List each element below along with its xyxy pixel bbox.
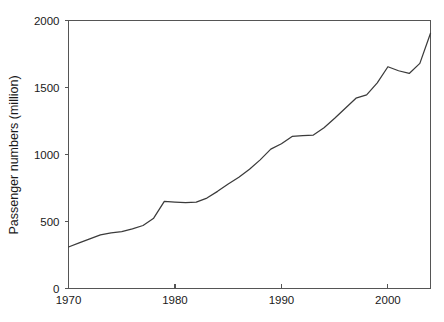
x-tick-label: 1980 <box>162 294 188 306</box>
y-tick-label: 500 <box>40 216 59 228</box>
passenger-numbers-series <box>69 33 431 247</box>
y-tick-label: 2000 <box>34 15 60 27</box>
plot-frame <box>69 21 431 289</box>
y-axis-ticks <box>65 21 69 289</box>
x-axis-ticks <box>69 284 388 289</box>
axis-frame <box>69 21 431 289</box>
line-chart: 0500100015002000 1970198019902000 Passen… <box>0 0 444 322</box>
x-tick-label: 2000 <box>375 294 401 306</box>
x-axis-tick-labels: 1970198019902000 <box>56 294 401 306</box>
y-tick-label: 1000 <box>34 149 60 161</box>
x-tick-label: 1990 <box>269 294 295 306</box>
y-axis-title: Passenger numbers (million) <box>7 75 21 234</box>
y-tick-label: 1500 <box>34 82 60 94</box>
chart-container: 0500100015002000 1970198019902000 Passen… <box>0 0 444 322</box>
y-axis-tick-labels: 0500100015002000 <box>34 15 60 295</box>
x-tick-label: 1970 <box>56 294 82 306</box>
